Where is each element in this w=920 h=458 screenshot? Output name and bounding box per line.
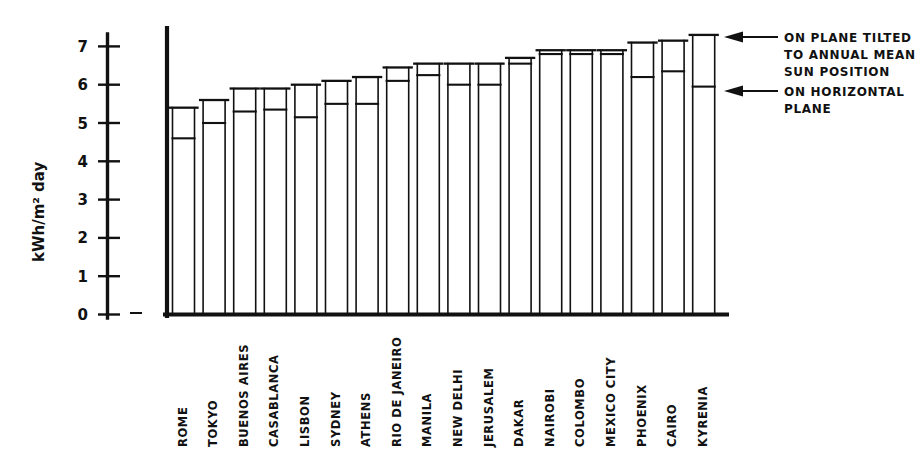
bar-group [690, 35, 718, 315]
bar-group [170, 108, 198, 315]
city-label-sydney: SYDNEY [329, 391, 343, 447]
bar-group [506, 58, 534, 315]
y-tick-label-5: 5 [78, 115, 88, 133]
city-label-phoenix: PHOENIX [635, 384, 649, 447]
y-tick-label-3: 3 [78, 191, 88, 209]
city-label-tokyo: TOKYO [206, 400, 220, 447]
bar-group [292, 85, 320, 315]
city-label-buenos-aires: BUENOS AIRES [237, 344, 251, 447]
horizontal-annotation-text: ON HORIZONTAL PLANE [784, 85, 905, 116]
city-label-jerusalem: JERUSALEM [482, 367, 496, 448]
bar-group [414, 64, 442, 315]
city-label-nairobi: NAIROBI [543, 388, 557, 447]
bar-group [476, 64, 504, 315]
city-label-new-delhi: NEW DELHI [451, 369, 465, 447]
city-label-manila: MANILA [420, 393, 434, 447]
tilted-annotation-line-2: TO ANNUAL MEAN [784, 48, 916, 62]
bar-group [445, 64, 473, 315]
horizontal-annotation-line-1: ON HORIZONTAL [784, 85, 905, 99]
bar-group [384, 67, 412, 314]
y-axis-title: kWh/m² day [30, 162, 48, 262]
city-label-rio-de-janeiro: RIO DE JANEIRO [390, 337, 404, 447]
city-label-mexico-city: MEXICO CITY [604, 357, 618, 447]
bar-group [261, 89, 289, 315]
chart-figure: 01234567 kWh/m² day ROMETOKYOBUENOS AIRE… [0, 0, 920, 458]
city-label-dakar: DAKAR [512, 399, 526, 447]
city-label-colombo: COLOMBO [573, 378, 587, 447]
bar-group [323, 81, 351, 315]
bar-group [629, 43, 657, 315]
bar-group [567, 50, 595, 314]
horizontal-annotation-line-2: PLANE [784, 102, 831, 116]
solar-radiation-bar-chart: 01234567 kWh/m² day ROMETOKYOBUENOS AIRE… [0, 0, 920, 458]
y-tick-label-2: 2 [78, 229, 88, 247]
horizontal-arrow-head-icon [724, 86, 743, 97]
city-label-cairo: CAIRO [665, 404, 679, 447]
tilted-arrow [724, 32, 778, 43]
y-tick-label-4: 4 [78, 153, 88, 171]
y-tick-label-6: 6 [78, 76, 88, 94]
horizontal-arrow [724, 86, 778, 97]
tilted-annotation-text: ON PLANE TILTED TO ANNUAL MEAN SUN POSIT… [784, 31, 916, 79]
bar-group [659, 41, 687, 315]
city-label-rome: ROME [176, 407, 190, 447]
y-tick-label-1: 1 [78, 268, 88, 286]
plot-frame [165, 28, 727, 316]
city-label-lisbon: LISBON [298, 395, 312, 447]
city-label-kyrenia: KYRENIA [696, 386, 710, 447]
y-axis-tick-labels: 01234567 [78, 38, 88, 324]
bar-group [231, 89, 259, 315]
tilted-annotation-line-1: ON PLANE TILTED [784, 31, 912, 45]
bar-group [598, 50, 626, 314]
annotation-arrows [724, 32, 778, 97]
y-tick-label-7: 7 [78, 38, 88, 56]
city-label-casablanca: CASABLANCA [267, 355, 281, 447]
bar-group [537, 50, 565, 314]
tilted-arrow-head-icon [724, 32, 743, 43]
city-label-athens: ATHENS [359, 392, 373, 447]
tilted-annotation-line-3: SUN POSITION [784, 65, 890, 79]
y-axis: 01234567 [78, 34, 142, 324]
bars-group [170, 35, 718, 315]
bar-group [200, 100, 228, 314]
x-axis-category-labels: ROMETOKYOBUENOS AIRESCASABLANCALISBONSYD… [176, 337, 710, 448]
bar-group [353, 77, 381, 314]
y-tick-label-0: 0 [78, 306, 88, 324]
